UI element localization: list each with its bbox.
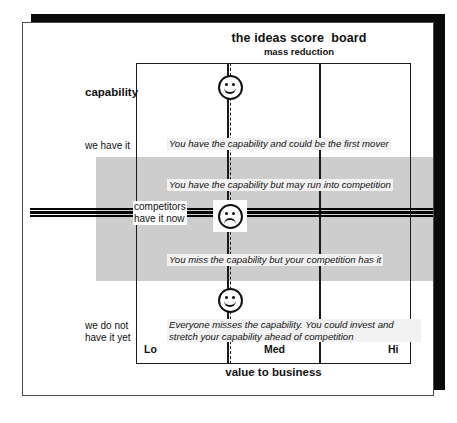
x-tick-lo: Lo bbox=[144, 343, 157, 355]
quadrant-note-first-mover: You have the capability and could be the… bbox=[167, 138, 391, 150]
page-subtitle: mass reduction bbox=[183, 46, 415, 57]
quadrant-note-invest-and-stretch: Everyone misses the capability. You coul… bbox=[167, 319, 421, 342]
x-tick-hi: Hi bbox=[388, 343, 399, 355]
y-label-we-do-not-have-it-yet: we do not have it yet bbox=[85, 320, 131, 343]
title-block: the ideas score board mass reduction bbox=[183, 31, 415, 57]
smiley-happy-icon-top bbox=[218, 75, 243, 100]
x-axis-title: value to business bbox=[136, 366, 411, 378]
y-axis-title: capability bbox=[85, 87, 138, 99]
smiley-sad-icon-middle bbox=[218, 204, 243, 229]
x-tick-med: Med bbox=[264, 343, 285, 355]
scoreboard-poster: the ideas score board mass reduction You… bbox=[22, 22, 434, 396]
smiley-happy-icon-bottom bbox=[218, 288, 243, 313]
quadrant-note-missing-capability: You miss the capability but your competi… bbox=[167, 254, 383, 266]
quadrant-note-competition-risk: You have the capability but may run into… bbox=[167, 179, 393, 191]
smiley-sad-icon-backdrop bbox=[213, 200, 247, 232]
y-label-competitors-have-it-now: competitors have it now bbox=[133, 201, 187, 225]
y-label-we-have-it: we have it bbox=[85, 140, 130, 152]
page-title: the ideas score board bbox=[183, 31, 415, 45]
